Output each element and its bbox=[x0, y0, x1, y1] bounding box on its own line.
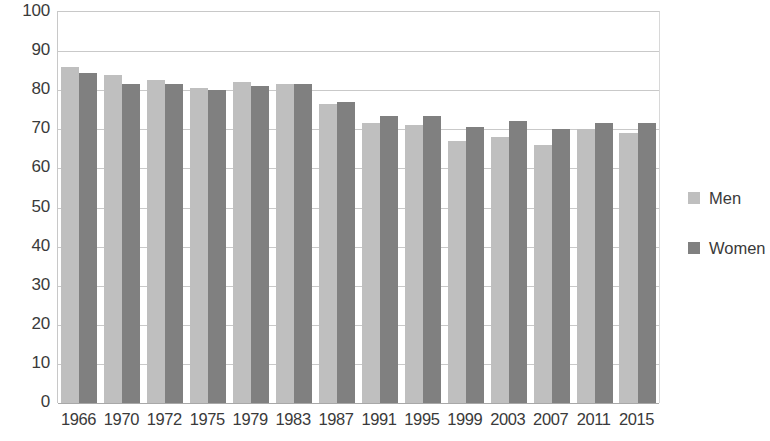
bar-women bbox=[466, 127, 484, 403]
bar-men bbox=[147, 80, 165, 403]
plot-area bbox=[57, 11, 660, 403]
y-axis-tick-label: 100 bbox=[2, 2, 50, 19]
bar-men bbox=[577, 129, 595, 403]
y-axis-tick-label: 60 bbox=[2, 158, 50, 175]
bar-group bbox=[487, 12, 530, 403]
y-axis-tick-label: 50 bbox=[2, 198, 50, 215]
bar-group bbox=[58, 12, 101, 403]
x-axis-tick-label: 1987 bbox=[315, 409, 358, 429]
bar-men bbox=[276, 84, 294, 403]
x-axis: 1966197019721975197919831987199119951999… bbox=[57, 409, 658, 439]
bar-men bbox=[61, 67, 79, 403]
y-axis-tick-label: 10 bbox=[2, 354, 50, 371]
bar-women bbox=[122, 84, 140, 403]
y-axis-tick-label: 90 bbox=[2, 41, 50, 58]
y-axis-tick-label: 20 bbox=[2, 315, 50, 332]
bar-women bbox=[595, 123, 613, 403]
y-axis-tick-label: 0 bbox=[2, 393, 50, 410]
legend-item-men[interactable]: Men bbox=[688, 186, 770, 210]
x-axis-tick-label: 1966 bbox=[57, 409, 100, 429]
chart-legend: MenWomen bbox=[688, 186, 770, 286]
x-axis-tick-label: 2011 bbox=[572, 409, 615, 429]
bar-men bbox=[362, 123, 380, 403]
legend-item-women[interactable]: Women bbox=[688, 236, 770, 260]
bar-group bbox=[401, 12, 444, 403]
bar-group bbox=[573, 12, 616, 403]
bar-group bbox=[273, 12, 316, 403]
x-axis-tick-label: 2007 bbox=[529, 409, 572, 429]
legend-label: Women bbox=[709, 239, 766, 257]
bar-men bbox=[405, 125, 423, 403]
bar-group bbox=[144, 12, 187, 403]
y-axis-tick-label: 30 bbox=[2, 276, 50, 293]
bar-group bbox=[444, 12, 487, 403]
y-axis-tick-label: 80 bbox=[2, 80, 50, 97]
x-axis-tick-label: 1999 bbox=[443, 409, 486, 429]
legend-swatch-icon bbox=[688, 192, 700, 204]
x-axis-tick-label: 1972 bbox=[143, 409, 186, 429]
bar-women bbox=[509, 121, 527, 403]
legend-label: Men bbox=[709, 189, 741, 207]
bar-women bbox=[251, 86, 269, 403]
legend-swatch-icon bbox=[688, 242, 700, 254]
bar-men bbox=[448, 141, 466, 403]
bar-group bbox=[101, 12, 144, 403]
bar-women bbox=[423, 116, 441, 403]
bar-group bbox=[316, 12, 359, 403]
bar-chart: 1009080706050403020100 19661970197219751… bbox=[0, 0, 770, 441]
x-axis-tick-label: 1995 bbox=[400, 409, 443, 429]
x-axis-tick-label: 1991 bbox=[358, 409, 401, 429]
bar-women bbox=[208, 90, 226, 403]
bar-group bbox=[230, 12, 273, 403]
axis-baseline bbox=[58, 403, 659, 404]
x-axis-tick-label: 2015 bbox=[615, 409, 658, 429]
bar-women bbox=[294, 84, 312, 403]
bar-group bbox=[616, 12, 659, 403]
bar-men bbox=[190, 88, 208, 403]
bar-women bbox=[337, 102, 355, 403]
x-axis-tick-label: 1979 bbox=[229, 409, 272, 429]
bar-group bbox=[359, 12, 402, 403]
x-axis-tick-label: 1983 bbox=[272, 409, 315, 429]
bar-men bbox=[104, 75, 122, 403]
bar-women bbox=[79, 73, 97, 403]
x-axis-tick-label: 2003 bbox=[486, 409, 529, 429]
y-axis: 1009080706050403020100 bbox=[0, 0, 50, 441]
bar-women bbox=[552, 129, 570, 403]
bar-men bbox=[491, 137, 509, 403]
bar-men bbox=[233, 82, 251, 403]
bars-layer bbox=[58, 12, 659, 403]
y-axis-tick-label: 70 bbox=[2, 119, 50, 136]
bar-women bbox=[638, 123, 656, 403]
x-axis-tick-label: 1970 bbox=[100, 409, 143, 429]
y-axis-tick-label: 40 bbox=[2, 237, 50, 254]
bar-group bbox=[530, 12, 573, 403]
bar-women bbox=[380, 116, 398, 403]
x-axis-tick-label: 1975 bbox=[186, 409, 229, 429]
bar-group bbox=[187, 12, 230, 403]
bar-women bbox=[165, 84, 183, 403]
bar-men bbox=[619, 133, 637, 403]
bar-men bbox=[534, 145, 552, 403]
bar-men bbox=[319, 104, 337, 403]
